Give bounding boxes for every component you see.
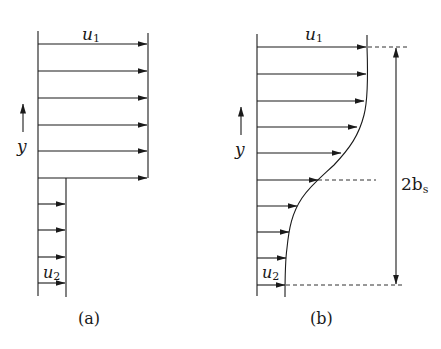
panel-a <box>23 31 148 297</box>
panel-b-dashed-guides <box>286 47 410 285</box>
panel-a-u1-label: u1 <box>82 24 100 45</box>
panel-b-u1-label: u1 <box>305 24 323 45</box>
panel-b-u2-label: u2 <box>262 263 279 283</box>
panel-b-velocity-arrows <box>257 47 366 285</box>
panel-b-2bs-label: 2bs <box>401 174 429 196</box>
panel-a-upper-arrows <box>38 44 147 178</box>
panel-b-y-label: y <box>234 139 245 159</box>
panel-a-u2-label: u2 <box>43 263 60 283</box>
panel-b-caption: (b) <box>310 309 333 328</box>
panel-b <box>241 34 410 297</box>
panel-a-caption: (a) <box>78 309 100 328</box>
mixing-layer-diagram: u1 u2 y (a) u1 u2 y 2bs (b) <box>0 0 441 349</box>
panel-a-y-label: y <box>16 136 27 156</box>
